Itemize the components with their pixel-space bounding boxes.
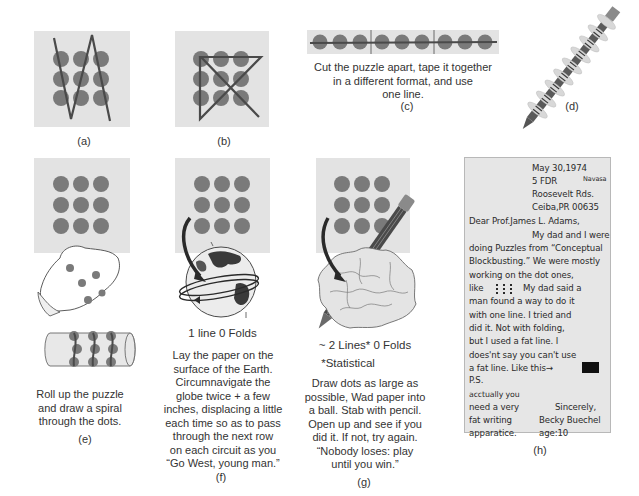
letter-body-line: My dad and I were [532,229,610,242]
letter-address-line-3: Ceiba,PR 00635 [532,201,599,214]
letter-address-line-1: 5 FDR [532,175,557,188]
letter-body-line: did it. Not with folding, [469,322,565,335]
fat-line-sample [582,362,599,373]
letter-ps-line: fat writing [469,414,512,427]
letter-ps-line: need a very [469,401,519,414]
letter-body-line: but I used a fat line. I [469,335,558,348]
letter-body-line: doing Puzzles from “Conceptual [469,242,603,255]
letter-body-line: man found a way to do it [469,295,574,308]
letter-body-line: working on the dot ones, [469,269,574,282]
panel-g-footnote: *Statistical [318,357,378,371]
letter-ps-line: apparatice. [469,427,517,440]
letter-body-line: like [469,282,483,295]
letter-closing: Sincerely, [555,401,596,414]
letter-body-line: My dad said a [523,282,581,295]
letter-ps-label: P.S. [469,374,483,387]
letter-ps-line: acctually you [469,388,520,401]
handwritten-letter: May 30,1974 5 FDR Navasa Roosevelt Rds. … [464,157,611,433]
letter-salutation: Dear Prof.James L. Adams, [469,215,580,228]
panel-h-label: (h) [528,444,552,456]
letter-address-line-2: Roosevelt Rds. [532,188,594,201]
panel-g-label: (g) [352,476,376,488]
letter-signature: Becky Buechel [539,414,601,427]
panel-g-description: Draw dots as large as possible, Wad pape… [300,377,430,472]
letter-body-line: with one line. I tried and [469,309,571,322]
letter-body-line: Blockbusting.” We were mostly [469,255,600,268]
letter-address-note: Navasa [583,173,606,186]
letter-date: May 30,1974 [532,162,587,175]
letter-body-line: does'nt say you can't use [469,349,576,362]
letter-age: age:10 [539,427,568,440]
panel-g-subtitle: ~ 2 Lines* 0 Folds [310,339,420,353]
dot-grid-sketch-icon [495,283,515,295]
